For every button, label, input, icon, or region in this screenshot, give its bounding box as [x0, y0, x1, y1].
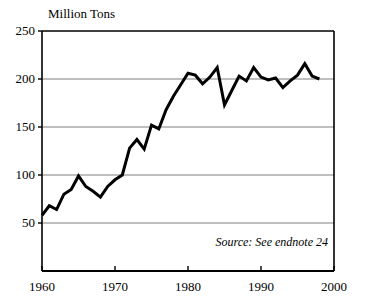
- source-annotation: Source: See endnote 24: [0, 236, 328, 248]
- x-tick-label-1990: 1990: [231, 280, 291, 293]
- x-tick-label-2000: 2000: [304, 280, 364, 293]
- y-tick-label-200: 200: [16, 72, 36, 85]
- y-tick-label-100: 100: [16, 168, 36, 181]
- chart-figure: Million Tons 50100150200250 196019701980…: [0, 0, 368, 306]
- y-tick-label-50: 50: [22, 216, 35, 229]
- y-tick-label-250: 250: [16, 24, 36, 37]
- x-tick-label-1960: 1960: [12, 280, 72, 293]
- gridlines: [42, 79, 334, 223]
- x-tick-label-1970: 1970: [85, 280, 145, 293]
- y-axis-title: Million Tons: [48, 7, 115, 20]
- x-tick-label-1980: 1980: [158, 280, 218, 293]
- y-tick-label-150: 150: [16, 120, 36, 133]
- chart-plot-area: [0, 0, 368, 306]
- data-series-line: [42, 64, 319, 216]
- series-line-0: [42, 64, 319, 216]
